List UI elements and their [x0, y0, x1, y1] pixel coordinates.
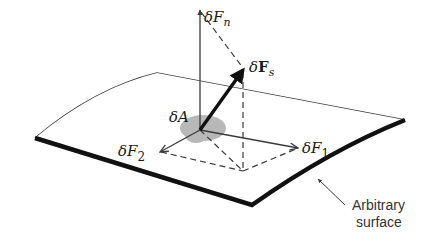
area-patch-lobe — [185, 127, 207, 143]
force-diagram: δFn δFs δA δF2 δF1 Arbitrary surface — [0, 0, 433, 247]
label-normal-force: δFn — [204, 8, 231, 29]
label-surface-line2: surface — [356, 214, 402, 230]
surface-pointer-line — [318, 179, 345, 205]
label-surface-line1: Arbitrary — [352, 197, 405, 213]
surface-fill — [35, 73, 405, 205]
label-shear-force: δFs — [249, 58, 275, 79]
label-area: δA — [169, 108, 189, 126]
